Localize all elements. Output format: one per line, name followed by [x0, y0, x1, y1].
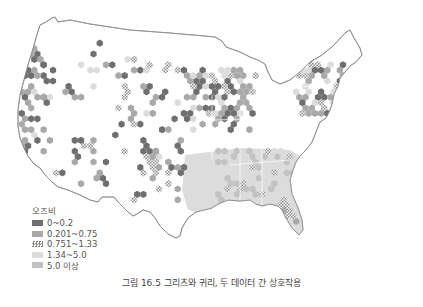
legend-swatch-4 — [32, 262, 43, 268]
hex-bin — [274, 229, 280, 236]
hex-bin — [343, 110, 349, 117]
legend-item: 5.0 이상 — [32, 260, 97, 271]
hex-bin — [278, 212, 284, 219]
legend-label: 0.751~1.33 — [47, 239, 97, 249]
hex-bin — [340, 104, 346, 111]
legend-label: 0~0.2 — [47, 218, 73, 228]
hex-bin — [281, 218, 287, 225]
legend-item: 0.751~1.33 — [32, 239, 97, 250]
legend-title: 오즈비 — [32, 204, 97, 216]
legend-swatch-0 — [32, 220, 43, 226]
hex-bin — [296, 61, 302, 68]
hex-bin — [337, 88, 343, 95]
hex-bin — [19, 45, 25, 52]
legend-label: 0.201~0.75 — [47, 229, 97, 239]
hex-bin — [334, 104, 340, 111]
legend-swatch-3 — [32, 252, 43, 258]
legend-label: 5.0 이상 — [47, 259, 79, 271]
hex-bin — [22, 50, 28, 57]
hex-bin — [293, 185, 299, 192]
hex-bin — [19, 67, 25, 74]
legend-swatch-2 — [32, 241, 43, 247]
hex-bin — [293, 67, 299, 74]
figure-caption: 그림 16.5 그리츠와 귀리, 두 데이터 간 상호작용 — [0, 276, 423, 289]
hex-bin — [16, 83, 22, 90]
hex-bin — [340, 83, 346, 90]
legend-label: 1.34~5.0 — [47, 250, 87, 260]
legend-item: 0.201~0.75 — [32, 229, 97, 240]
hex-bin — [337, 110, 343, 117]
legend-swatch-1 — [32, 231, 43, 237]
hex-bin — [25, 45, 31, 52]
legend: 오즈비 0~0.2 0.201~0.75 0.751~1.33 1.34~5.0… — [32, 204, 97, 271]
hex-bin — [284, 223, 290, 230]
hex-bin — [337, 99, 343, 106]
hex-bin — [334, 94, 340, 101]
legend-item: 0~0.2 — [32, 218, 97, 229]
